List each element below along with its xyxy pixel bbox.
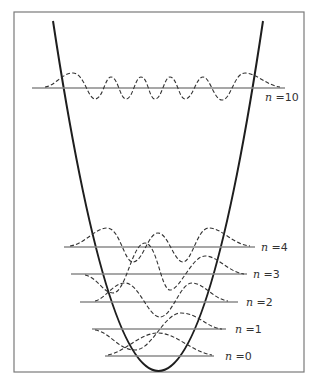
- level-label-n1: n =1: [235, 323, 262, 336]
- wavefunction-n4: [70, 228, 250, 262]
- level-n2: n =2: [80, 283, 273, 317]
- level-n10: n =10: [32, 73, 299, 104]
- level-n3: n =3: [71, 243, 280, 293]
- wavefunction-n10: [45, 73, 280, 100]
- level-label-n0: n =0: [225, 350, 252, 363]
- level-label-n4: n =4: [261, 241, 288, 254]
- wavefunction-n1: [95, 313, 222, 350]
- level-label-n3: n =3: [253, 268, 280, 281]
- harmonic-oscillator-diagram: n =10 n =4 n =3 n =2 n =1: [0, 0, 315, 380]
- potential-parabola: [53, 21, 263, 371]
- level-label-n10: n =10: [265, 91, 299, 104]
- figure-frame: [14, 12, 304, 372]
- level-label-n2: n =2: [246, 296, 273, 309]
- wavefunction-n0: [108, 333, 212, 355]
